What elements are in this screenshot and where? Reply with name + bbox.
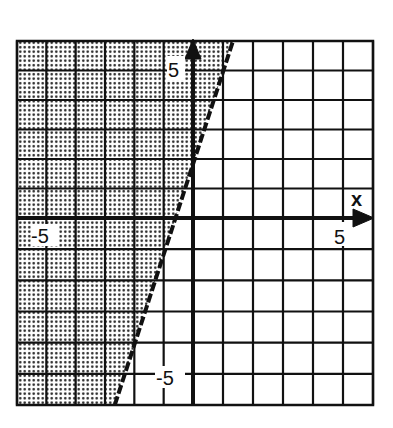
x-axis-label: x bbox=[351, 188, 362, 210]
x-tick-5: 5 bbox=[334, 226, 345, 248]
y-tick-neg5: -5 bbox=[156, 367, 174, 389]
inequality-graph: 5 -5 5 -5 x bbox=[0, 0, 393, 428]
y-tick-5: 5 bbox=[168, 59, 179, 81]
x-axis-arrowhead-icon bbox=[353, 209, 374, 227]
shaded-region bbox=[17, 41, 233, 405]
x-tick-neg5: -5 bbox=[31, 225, 49, 247]
